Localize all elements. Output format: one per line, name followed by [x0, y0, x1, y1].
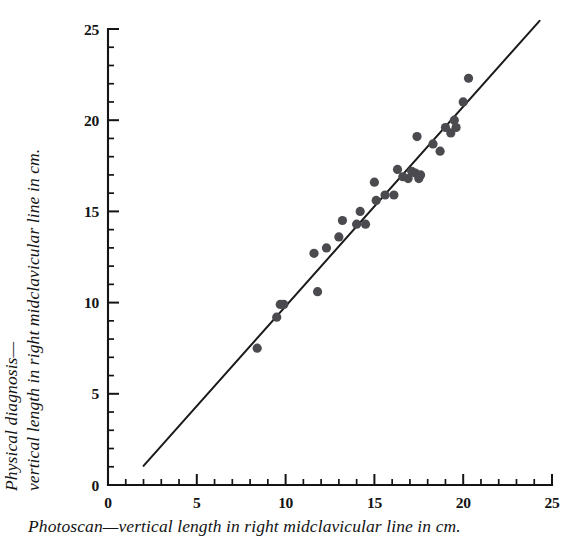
y-tick-label: 25 — [84, 21, 99, 38]
data-point — [338, 216, 347, 225]
y-tick-label: 0 — [92, 477, 100, 494]
data-point — [412, 132, 421, 141]
data-point — [372, 196, 381, 205]
data-point — [389, 190, 398, 199]
data-points-group — [253, 74, 474, 353]
x-tick-label: 5 — [193, 494, 201, 511]
y-axis-title-line-1: Physical diagnosis— — [1, 342, 22, 491]
data-point — [428, 139, 437, 148]
data-point — [279, 300, 288, 309]
data-point — [313, 287, 322, 296]
y-tick-label: 10 — [84, 294, 99, 311]
data-point — [436, 147, 445, 156]
data-point — [416, 170, 425, 179]
data-point — [272, 313, 281, 322]
identity-regression-line — [144, 21, 540, 466]
x-tick-label: 25 — [545, 494, 560, 511]
y-tick-label: 20 — [84, 112, 99, 129]
data-point — [334, 232, 343, 241]
data-point — [356, 207, 365, 216]
x-tick-label: 15 — [367, 494, 382, 511]
y-tick-label: 15 — [84, 203, 99, 220]
y-axis-title: Physical diagnosis— vertical length in r… — [0, 0, 70, 490]
x-axis-title: Photoscan—vertical length in right midcl… — [28, 516, 461, 537]
x-tick-label: 10 — [278, 494, 293, 511]
data-point — [464, 74, 473, 83]
data-point — [253, 344, 262, 353]
regression-line — [144, 21, 540, 466]
data-point — [380, 190, 389, 199]
data-point — [370, 178, 379, 187]
plot-canvas: 05101520250510152025 — [0, 0, 581, 545]
data-point — [459, 97, 468, 106]
y-tick-label: 5 — [92, 385, 100, 402]
y-axis-title-line-2: vertical length in right midclavicular l… — [23, 149, 44, 491]
x-tick-label: 0 — [104, 494, 112, 511]
data-point — [309, 249, 318, 258]
data-point — [352, 220, 361, 229]
x-tick-label: 20 — [456, 494, 471, 511]
data-point — [451, 123, 460, 132]
data-point — [361, 220, 370, 229]
scatter-plot-figure: 05101520250510152025 Physical diagnosis—… — [0, 0, 581, 545]
data-point — [322, 243, 331, 252]
